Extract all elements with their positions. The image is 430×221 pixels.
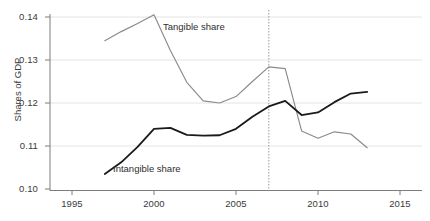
chart-container: Shares of GDP 0.14 0.13 0.12 0.11 0.10 1… — [0, 0, 430, 221]
series-line-intangible — [105, 92, 367, 174]
y-tick-label-0-11: 0.11 — [4, 140, 38, 151]
gridlines — [50, 17, 422, 146]
x-tick-label-1995: 1995 — [52, 198, 92, 209]
axis-lines — [45, 14, 422, 195]
x-tick-label-2000: 2000 — [134, 198, 174, 209]
x-tick-label-2015: 2015 — [380, 198, 420, 209]
y-tick-label-0-12: 0.12 — [4, 97, 38, 108]
y-tick-label-0-13: 0.13 — [4, 54, 38, 65]
series-label-intangible: Intangible share — [113, 163, 181, 174]
series-label-tangible: Tangible share — [163, 21, 225, 32]
y-tick-label-0-10: 0.10 — [4, 183, 38, 194]
y-tick-label-0-14: 0.14 — [4, 11, 38, 22]
x-tick-label-2005: 2005 — [216, 198, 256, 209]
x-tick-label-2010: 2010 — [298, 198, 338, 209]
chart-plot-svg — [0, 0, 430, 221]
